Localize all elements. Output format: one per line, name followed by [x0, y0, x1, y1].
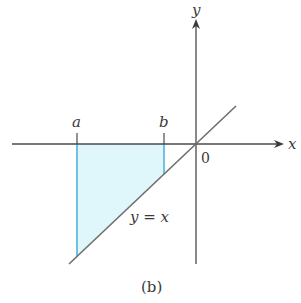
- x-axis-label: x: [288, 135, 297, 153]
- curve-label: y = x: [129, 208, 170, 226]
- shaded-region: [77, 144, 164, 256]
- figure-caption: (b): [141, 278, 162, 296]
- tick-a-label: a: [72, 113, 81, 131]
- y-axis-label: y: [191, 1, 201, 19]
- origin-label: 0: [201, 150, 210, 166]
- tick-b-label: b: [159, 113, 169, 131]
- diagram-canvas: y x 0 a b y = x (b): [0, 0, 301, 303]
